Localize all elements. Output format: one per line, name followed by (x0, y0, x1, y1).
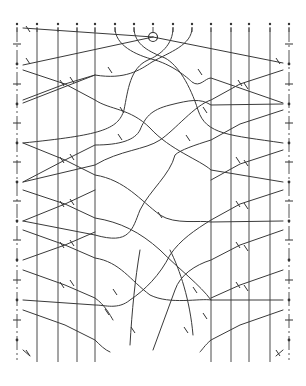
thread-path (200, 310, 283, 352)
pin-dot-icon (16, 63, 19, 66)
tick-mark (203, 107, 207, 113)
tick-mark (203, 313, 207, 319)
tick-mark (70, 280, 74, 286)
thread-path (23, 75, 95, 100)
pin-dot-icon (16, 181, 19, 184)
thread-path (130, 250, 140, 345)
pin-dot-icon (288, 339, 291, 342)
pin-dot-icon (16, 103, 19, 106)
tick-mark (186, 135, 190, 141)
thread-path (23, 100, 283, 182)
thread-path (23, 310, 110, 352)
thread-path (23, 37, 153, 65)
thread-path (23, 190, 95, 221)
column-dot-icon (152, 23, 154, 25)
column-dot-icon (16, 23, 18, 25)
thread-path (23, 70, 283, 182)
tick-mark (26, 26, 30, 32)
tick-mark (193, 287, 197, 293)
thread-path (211, 270, 283, 298)
column-dot-icon (133, 23, 135, 25)
column-dot-icon (210, 23, 212, 25)
column-dot-icon (191, 23, 193, 25)
pin-dot-icon (16, 299, 19, 302)
tick-mark (244, 245, 248, 251)
tick-mark (108, 67, 112, 73)
column-dot-icon (57, 23, 59, 25)
thread-paths (23, 28, 283, 356)
thread-path (23, 143, 283, 222)
tick-mark (236, 157, 240, 163)
tick-mark (244, 83, 248, 89)
tick-mark (60, 282, 64, 288)
column-dot-icon (36, 23, 38, 25)
lace-pricking-diagram (0, 0, 306, 386)
tick-mark (26, 58, 30, 64)
tick-mark (276, 58, 280, 64)
column-dot-icon (288, 23, 290, 25)
column-dot-icon (230, 23, 232, 25)
pin-dot-icon (288, 142, 291, 145)
tick-mark (118, 134, 122, 140)
tick-mark (198, 69, 202, 75)
pin-dot-icon (288, 181, 291, 184)
thread-path (23, 28, 173, 143)
pin-dot-icon (288, 259, 291, 262)
pin-dot-icon (16, 339, 19, 342)
thread-path (23, 232, 95, 260)
column-dot-icon (76, 23, 78, 25)
tick-mark (158, 212, 162, 218)
tick-mark (244, 285, 248, 291)
pin-dot-icon (16, 142, 19, 145)
thread-path (134, 28, 283, 143)
column-dot-icon (114, 23, 116, 25)
thread-path (153, 37, 283, 63)
column-dot-icon (94, 23, 96, 25)
tick-mark (131, 327, 135, 333)
pin-dot-icon (288, 220, 291, 223)
column-dot-icon (269, 23, 271, 25)
thread-path (23, 190, 283, 306)
pin-dot-icon (16, 259, 19, 262)
tick-mark (184, 327, 188, 333)
diagram-canvas (0, 0, 306, 386)
thread-path (23, 110, 283, 238)
pin-dot-icon (288, 299, 291, 302)
pin-dot-icon (288, 63, 291, 66)
thread-path (153, 230, 283, 350)
pin-dot-icon (16, 220, 19, 223)
column-dot-icon (248, 23, 250, 25)
pin-dot-icon (288, 103, 291, 106)
thread-path (23, 70, 283, 182)
tick-mark (113, 289, 117, 295)
column-dot-icon (172, 23, 174, 25)
vertical-threads (37, 28, 270, 362)
tick-mark (244, 203, 248, 209)
